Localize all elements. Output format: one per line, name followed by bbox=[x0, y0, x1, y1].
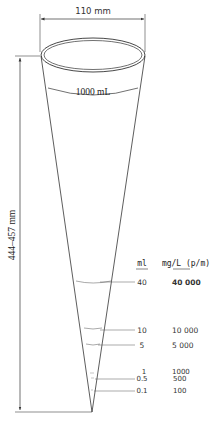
height-label: 444–457 mm bbox=[7, 209, 17, 260]
conc-header: mg/L (p/m) bbox=[162, 259, 210, 268]
capacity-label: 1000 mL bbox=[76, 87, 111, 97]
svg-text:10: 10 bbox=[137, 326, 147, 335]
column-headers: ml mg/L (p/m) bbox=[136, 259, 210, 269]
graduation-40: 40 40 000 bbox=[76, 278, 201, 287]
svg-text:10 000: 10 000 bbox=[172, 326, 198, 335]
svg-text:100: 100 bbox=[173, 387, 186, 395]
svg-text:5 000: 5 000 bbox=[172, 341, 194, 350]
imhoff-cone-diagram: 110 mm 1000 mL 444–457 mm ml mg/L (p/m) … bbox=[0, 0, 219, 425]
cone-rim-inner bbox=[44, 41, 142, 70]
graduation-0-1: 0.1 100 bbox=[91, 387, 186, 395]
svg-text:0.5: 0.5 bbox=[136, 375, 147, 383]
svg-text:40 000: 40 000 bbox=[172, 278, 201, 287]
svg-text:40: 40 bbox=[137, 278, 147, 287]
graduation-10: 10 10 000 bbox=[84, 326, 198, 335]
width-label: 110 mm bbox=[75, 6, 111, 16]
graduation-0-5: 0.5 500 bbox=[91, 375, 186, 383]
svg-text:500: 500 bbox=[173, 375, 186, 383]
svg-text:0.1: 0.1 bbox=[136, 387, 147, 395]
cone-rim-outer bbox=[41, 38, 145, 72]
ml-header: ml bbox=[137, 259, 147, 268]
capacity-mark: 1000 mL bbox=[48, 87, 138, 97]
height-dimension: 444–457 mm bbox=[7, 56, 92, 412]
svg-text:5: 5 bbox=[140, 341, 145, 350]
